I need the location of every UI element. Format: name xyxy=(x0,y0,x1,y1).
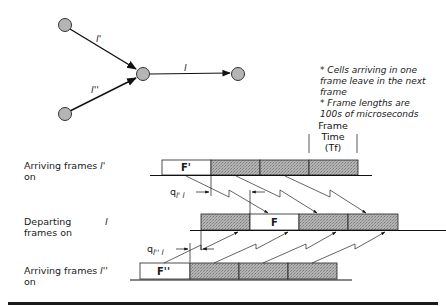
note-1-line-2: frame leave in the next xyxy=(320,76,446,87)
node-right xyxy=(232,68,245,81)
q-label-bottom: ql'' l xyxy=(147,243,164,258)
q-top-marker xyxy=(196,176,265,214)
row-label-arriving-top: Arriving frames on xyxy=(24,160,97,182)
note-1-line-3: frame xyxy=(320,87,446,98)
edge-l xyxy=(150,73,230,74)
bottom-rule xyxy=(8,302,438,305)
departing-frames-row xyxy=(190,214,446,231)
frame-time-label: Frame Time (Tf) xyxy=(303,120,363,153)
note-2-line-2: 100s of microseconds xyxy=(320,109,446,120)
edge-label-l-double-prime: l'' xyxy=(91,84,99,95)
top-to-departing-arrows xyxy=(186,176,366,213)
frame-label-f-double-prime: F'' xyxy=(157,266,170,277)
edge-l-prime xyxy=(70,29,136,69)
row-label-departing: Departing frames on xyxy=(24,216,72,238)
node-center xyxy=(137,68,150,81)
node-bottom-left xyxy=(59,108,72,121)
q-label-top: ql' l xyxy=(170,186,185,201)
row-label-arriving-bottom: Arriving frames on xyxy=(24,265,97,287)
network-graph xyxy=(59,19,245,121)
frame-timing-diagram xyxy=(0,0,446,306)
row-link-arriving-top: l' xyxy=(100,160,105,171)
notes: * Cells arriving in one frame leave in t… xyxy=(320,65,446,120)
edge-l-double-prime xyxy=(70,78,136,111)
node-top-left xyxy=(59,19,72,32)
row-link-arriving-bottom: l'' xyxy=(100,265,108,276)
frame-label-f: F xyxy=(271,217,278,228)
row-link-departing: l xyxy=(105,216,108,227)
edge-label-l-prime: l' xyxy=(96,33,101,44)
frame-label-f-prime: F' xyxy=(181,162,191,173)
note-1-line-1: * Cells arriving in one xyxy=(320,65,446,76)
bottom-to-departing-arrows xyxy=(164,232,385,263)
edge-label-l: l xyxy=(184,62,187,73)
note-2-line-1: * Frame lengths are xyxy=(320,98,446,109)
